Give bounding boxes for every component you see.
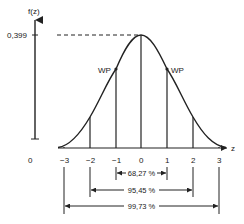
sigma-lines bbox=[64, 35, 219, 148]
x-tick-label: 3 bbox=[217, 156, 222, 165]
x-tick-labels: −3 −2 −1 0 1 2 3 bbox=[60, 156, 222, 165]
range-1-sigma: 68,27 % bbox=[117, 169, 166, 178]
wp-label-left: WP bbox=[98, 66, 111, 75]
range-2-sigma-label: 95,45 % bbox=[128, 186, 156, 195]
x-tick-label: 0 bbox=[139, 156, 144, 165]
peak-value-label: 0,399 bbox=[7, 31, 28, 40]
inflection-point-left bbox=[114, 67, 117, 70]
bell-curve bbox=[58, 35, 226, 148]
range-2-sigma: 95,45 % bbox=[91, 186, 192, 195]
x-tick-label: −3 bbox=[60, 156, 70, 165]
x-axis-label: z bbox=[231, 144, 235, 153]
range-1-sigma-label: 68,27 % bbox=[128, 169, 156, 178]
x-tick-label: 1 bbox=[165, 156, 170, 165]
range-3-sigma: 99,73 % bbox=[65, 202, 218, 211]
y-origin-label: 0 bbox=[28, 156, 33, 165]
x-tick-label: −1 bbox=[112, 156, 122, 165]
x-tick-label: 2 bbox=[191, 156, 196, 165]
x-tick-label: −2 bbox=[86, 156, 96, 165]
wp-label-right: WP bbox=[171, 66, 184, 75]
x-axis: z bbox=[58, 144, 235, 153]
y-axis-label: f(z) bbox=[28, 7, 40, 16]
range-3-sigma-label: 99,73 % bbox=[128, 202, 156, 211]
inflection-point-right bbox=[165, 67, 168, 70]
normal-distribution-chart: f(z) 0,399 0 z WP WP −3 −2 −1 0 1 2 3 bbox=[0, 0, 244, 224]
y-axis: f(z) 0,399 0 bbox=[7, 7, 40, 165]
